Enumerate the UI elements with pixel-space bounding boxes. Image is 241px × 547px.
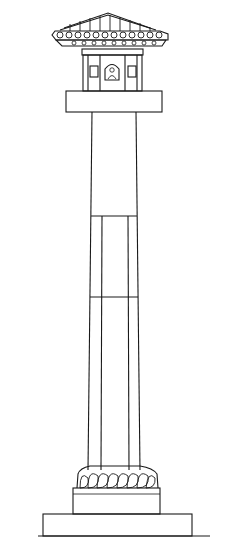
ground-base (43, 514, 192, 536)
plinth (73, 488, 160, 514)
column-drawing (0, 0, 241, 547)
left-niche (90, 66, 98, 77)
right-niche (128, 66, 136, 77)
column-shaft (88, 112, 140, 470)
abacus-slab (66, 91, 162, 112)
shrine-pavilion (82, 49, 143, 91)
lotus-base (77, 466, 158, 488)
pediment-roof (52, 13, 168, 46)
